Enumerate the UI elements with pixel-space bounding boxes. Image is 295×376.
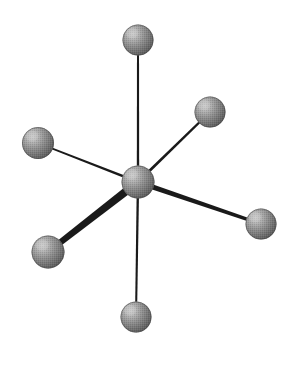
central-atom-highlight	[124, 168, 137, 179]
ligand-left-highlight	[26, 131, 39, 142]
ligand-lower-left	[32, 236, 65, 269]
ligand-left	[22, 127, 54, 159]
ligand-top	[123, 25, 154, 56]
ligand-bottom	[121, 302, 152, 333]
molecular-model-figure	[0, 0, 295, 376]
ligand-upper-right	[195, 97, 226, 128]
ligand-right	[246, 209, 277, 240]
ligand-lower-left-highlight	[35, 239, 48, 250]
central-atom	[122, 166, 155, 199]
bond-top	[137, 40, 139, 182]
molecule-diagram	[0, 0, 295, 376]
